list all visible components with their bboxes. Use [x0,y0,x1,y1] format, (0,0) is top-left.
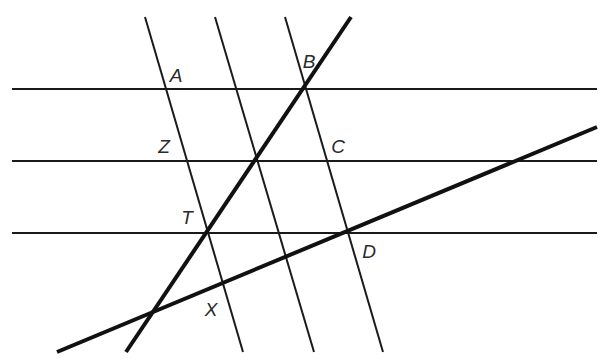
point-label-a: A [170,66,183,85]
horizontal-lines [12,89,597,233]
point-label-d: D [362,242,376,261]
point-label-x: X [205,300,218,319]
point-label-c: C [331,137,345,156]
point-label-t: T [181,208,193,227]
point-label-b: B [303,52,316,71]
thick-lines [57,17,597,352]
point-label-z: Z [158,137,170,156]
